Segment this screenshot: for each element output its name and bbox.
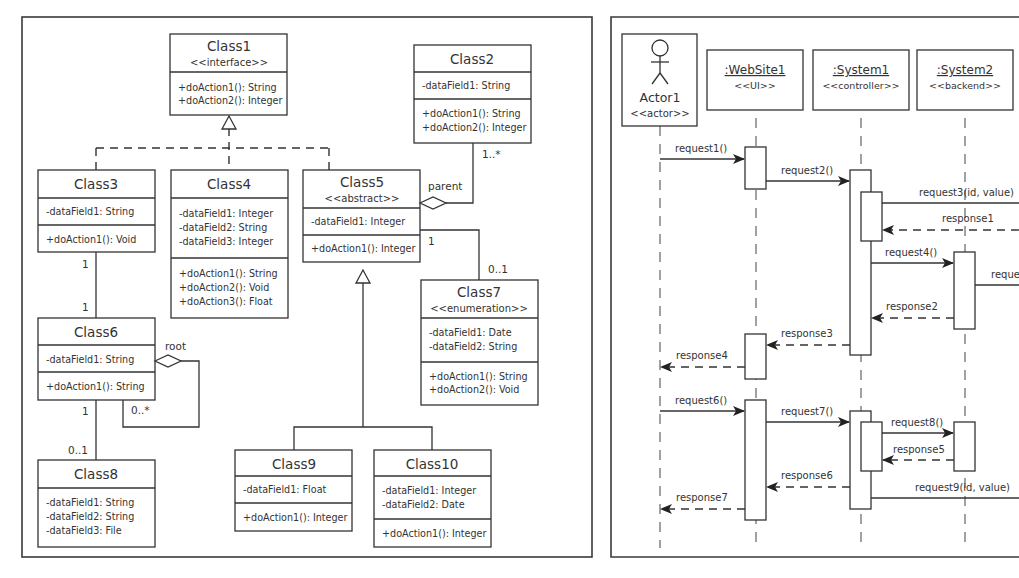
class-field: -dataField3: File <box>46 525 122 536</box>
class-field: -dataField2: String <box>46 511 134 522</box>
message-request6: request6() <box>660 395 744 411</box>
class-method: +doAction1(): Integer <box>243 512 347 523</box>
multiplicity-label: 1 <box>82 301 89 313</box>
activation-bar <box>954 422 975 471</box>
aggregation-diamond-icon <box>155 355 181 367</box>
class-field: -dataField2: Date <box>382 499 465 510</box>
svg-text:request1(): request1() <box>675 143 727 154</box>
class-field: -dataField1: Integer <box>179 208 273 219</box>
class-name: Class7 <box>457 284 501 300</box>
svg-text:response1: response1 <box>942 213 994 224</box>
class-name: Class1 <box>207 38 251 54</box>
class-method: +doAction3(): Float <box>179 296 273 307</box>
class-field: -dataField1: String <box>422 80 510 91</box>
class-field: -dataField1: String <box>46 354 134 365</box>
sequence-diagram: Actor1 <<actor>> :WebSite1 <<UI>> :Syste… <box>611 17 1019 557</box>
activation-bar <box>861 192 882 241</box>
class-method: +doAction1(): String <box>178 82 277 93</box>
class-field: -dataField1: Date <box>429 327 512 338</box>
participant-system1[interactable]: :System1 <<controller>> <box>813 50 909 110</box>
class-method: +doAction1(): String <box>46 381 145 392</box>
class-field: -dataField1: String <box>46 497 134 508</box>
class-method: +doAction1(): String <box>422 108 521 119</box>
class-field: -dataField1: String <box>46 206 134 217</box>
class-box-class7[interactable]: Class7 <<enumeration>> -dataField1: Date… <box>421 280 538 405</box>
message-response4: response4 <box>661 350 745 367</box>
multiplicity-label: 1 <box>82 258 89 270</box>
activation-bar <box>745 400 766 520</box>
message-request7: request7() <box>766 406 849 422</box>
svg-text:request7(): request7() <box>781 406 833 417</box>
class-stereotype: <<enumeration>> <box>430 303 528 314</box>
message-response3: response3 <box>767 328 850 345</box>
realization-triangle-icon <box>222 116 236 129</box>
multiplicity-label: 1..* <box>482 148 501 160</box>
class-box-class1[interactable]: Class1 <<interface>> +doAction1(): Strin… <box>170 34 287 115</box>
svg-text:response4: response4 <box>676 350 728 361</box>
message-response5: response5 <box>883 444 954 460</box>
participant-name: :System1 <box>833 63 889 77</box>
multiplicity-label: 1 <box>428 235 435 247</box>
participant-stereotype: <<controller>> <box>822 80 899 91</box>
class-field: -dataField1: Integer <box>382 485 476 496</box>
multiplicity-label: 0..1 <box>488 263 508 275</box>
class-box-class5[interactable]: Class5 <<abstract>> -dataField1: Integer… <box>303 170 420 262</box>
class-diagram: Class1 <<interface>> +doAction1(): Strin… <box>22 17 592 557</box>
class-name: Class5 <box>340 174 384 190</box>
class-method: +doAction1(): Integer <box>311 243 415 254</box>
class-field: -dataField1: Float <box>243 484 327 495</box>
class-box-class3[interactable]: Class3 -dataField1: String +doAction1():… <box>38 170 155 252</box>
class-name: Class4 <box>207 176 251 192</box>
svg-text:response3: response3 <box>781 328 833 339</box>
class-name: Class2 <box>450 51 494 67</box>
svg-text:request8(): request8() <box>891 417 943 428</box>
class-box-class10[interactable]: Class10 -dataField1: Integer -dataField2… <box>374 450 491 547</box>
participant-stereotype: <<actor>> <box>630 108 689 119</box>
class-box-class4[interactable]: Class4 -dataField1: Integer -dataField2:… <box>171 170 288 318</box>
class-name: Class6 <box>74 324 118 340</box>
class-field: -dataField1: Integer <box>311 216 405 227</box>
class-field: -dataField2: String <box>429 341 517 352</box>
message-response7: response7 <box>661 492 745 509</box>
class-method: +doAction1(): String <box>179 268 278 279</box>
class-box-class9[interactable]: Class9 -dataField1: Float +doAction1(): … <box>235 450 352 531</box>
generalization-triangle-icon <box>356 270 370 283</box>
message-request2: request2() <box>766 165 849 181</box>
participant-stereotype: <<UI>> <box>734 80 776 91</box>
class-stereotype: <<interface>> <box>190 57 268 68</box>
message-response6: response6 <box>767 470 850 487</box>
role-label: parent <box>428 180 462 192</box>
activation-bar <box>954 252 975 329</box>
svg-text:request4(): request4() <box>885 247 937 258</box>
participant-name: :System2 <box>937 63 993 77</box>
svg-text:response6: response6 <box>781 470 833 481</box>
class-box-class2[interactable]: Class2 -dataField1: String +doAction1():… <box>414 45 531 143</box>
svg-text:request9(id, value): request9(id, value) <box>915 482 1010 493</box>
svg-text:request6(): request6() <box>675 395 727 406</box>
class-name: Class10 <box>406 456 459 472</box>
class-box-class6[interactable]: Class6 -dataField1: String +doAction1():… <box>38 318 155 400</box>
class-field: -dataField3: Integer <box>179 236 273 247</box>
participant-website1[interactable]: :WebSite1 <<UI>> <box>707 50 803 110</box>
multiplicity-label: 1 <box>82 405 89 417</box>
message-request4: request4() <box>871 247 953 263</box>
svg-text:request2(): request2() <box>781 165 833 176</box>
participant-actor1[interactable]: Actor1 <<actor>> <box>622 34 697 126</box>
message-response2: response2 <box>872 301 954 318</box>
diagram-canvas: Class1 <<interface>> +doAction1(): Strin… <box>0 0 1019 578</box>
svg-text:reque: reque <box>991 269 1019 280</box>
role-label: root <box>165 340 186 352</box>
class-method: +doAction2(): Integer <box>178 95 282 106</box>
message-request5-partial: reque <box>975 269 1019 285</box>
class-box-class8[interactable]: Class8 -dataField1: String -dataField2: … <box>38 460 155 547</box>
participant-system2[interactable]: :System2 <<backend>> <box>917 50 1013 110</box>
class-name: Class8 <box>74 466 118 482</box>
participant-name: :WebSite1 <box>725 63 786 77</box>
class-method: +doAction2(): Integer <box>422 122 526 133</box>
aggregation-diamond-icon <box>420 197 446 209</box>
message-request8: request8() <box>882 417 953 433</box>
class-method: +doAction1(): Integer <box>382 528 486 539</box>
svg-text:response2: response2 <box>886 301 938 312</box>
activation-bar <box>745 147 766 189</box>
svg-text:response7: response7 <box>676 492 728 503</box>
